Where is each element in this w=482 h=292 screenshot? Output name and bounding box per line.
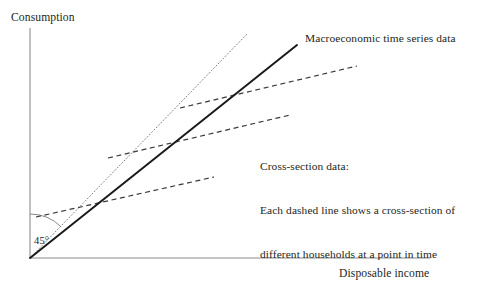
cross-section-annotation-line-2: Each dashed line shows a cross-section o… [260,203,455,218]
y-axis-label: Consumption [11,11,75,26]
consumption-diagram: Consumption Disposable income Macroecono… [0,0,482,292]
cross-section-annotation-line-3: different households at a point in time [260,247,455,262]
cross-section-line-high [180,66,357,108]
forty-five-degree-line [30,33,248,258]
angle-label: 45° [34,234,49,248]
angle-arc [30,214,61,227]
cross-section-annotation-line-1: Cross-section data: [260,159,455,174]
macroeconomic-series-annotation: Macroeconomic time series data [305,31,456,46]
macroeconomic-line [30,45,297,258]
cross-section-annotation: Cross-section data: Each dashed line sho… [260,130,455,291]
